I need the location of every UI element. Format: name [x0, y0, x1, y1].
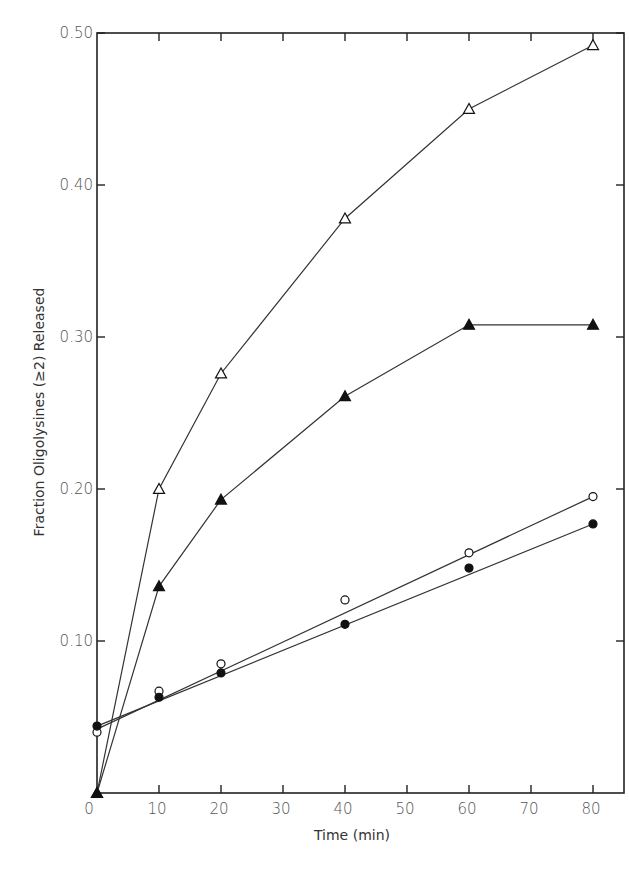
x-tick-label: 20	[209, 800, 228, 818]
filled-circle-marker	[155, 693, 163, 701]
series-filled-circle	[93, 520, 597, 730]
x-tick-label: 40	[333, 800, 352, 818]
axes: 010203040506070800.100.200.300.400.50	[60, 24, 624, 818]
series-open-triangle	[92, 40, 599, 798]
open-triangle-marker	[154, 484, 165, 494]
x-tick-label: 30	[271, 800, 290, 818]
open-circle-marker	[465, 549, 473, 557]
open-triangle-marker	[464, 104, 475, 114]
y-tick-label: 0.40	[60, 176, 93, 194]
y-tick-label: 0.10	[60, 632, 93, 650]
y-tick-label: 0.20	[60, 480, 93, 498]
x-tick-label: 0	[84, 800, 94, 818]
series-filled-triangle	[92, 319, 599, 797]
x-tick-label: 60	[457, 800, 476, 818]
x-tick-label: 70	[519, 800, 538, 818]
filled-circle-marker	[93, 722, 101, 730]
x-tick-label: 10	[147, 800, 166, 818]
open-circle-marker	[341, 596, 349, 604]
x-tick-label: 80	[581, 800, 600, 818]
filled-circle-marker	[217, 669, 225, 677]
plot-frame	[97, 33, 624, 793]
series-group	[92, 40, 599, 798]
series-open-circle	[93, 493, 597, 737]
filled-triangle-marker	[154, 581, 165, 591]
series-line	[97, 45, 593, 793]
filled-circle-marker	[465, 564, 473, 572]
y-tick-label: 0.50	[60, 24, 93, 42]
open-circle-marker	[217, 660, 225, 668]
y-axis-title: Fraction Oligolysines (≥2) Released	[31, 288, 47, 537]
fit-line	[97, 497, 593, 730]
open-triangle-marker	[588, 40, 599, 50]
x-tick-label: 50	[395, 800, 414, 818]
y-tick-label: 0.30	[60, 328, 93, 346]
line-chart: 010203040506070800.100.200.300.400.50 Ti…	[0, 0, 629, 873]
open-circle-marker	[589, 493, 597, 501]
filled-circle-marker	[341, 620, 349, 628]
x-axis-title: Time (min)	[313, 827, 390, 843]
filled-circle-marker	[589, 520, 597, 528]
filled-triangle-marker	[216, 494, 227, 504]
filled-triangle-marker	[340, 391, 351, 401]
